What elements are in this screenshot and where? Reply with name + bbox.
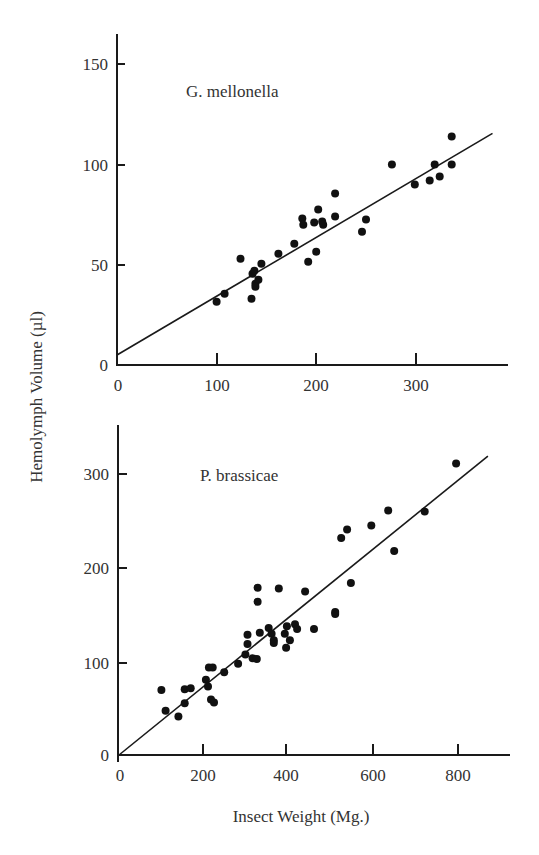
bottom-xtick-800: 800	[445, 766, 471, 785]
top-species-label: G. mellonella	[186, 82, 279, 101]
data-point	[411, 181, 419, 189]
data-point	[312, 248, 320, 256]
bottom-ytick-0: 0	[101, 746, 110, 765]
data-point	[270, 639, 278, 647]
data-point	[347, 579, 355, 587]
data-point	[257, 260, 265, 268]
data-point	[281, 630, 289, 638]
bottom-regression-line	[119, 456, 488, 755]
data-point	[209, 664, 217, 672]
data-point	[448, 132, 456, 140]
data-point	[436, 173, 444, 181]
data-point	[421, 508, 429, 516]
bottom-xtick-0: 0	[116, 766, 125, 785]
data-point	[343, 525, 351, 533]
data-point	[174, 713, 182, 721]
bottom-xtick-600: 600	[360, 766, 386, 785]
data-point	[301, 587, 309, 595]
data-point	[250, 267, 258, 275]
data-point	[452, 460, 460, 468]
data-point	[162, 707, 170, 715]
data-point	[331, 190, 339, 198]
bottom-species-label: P. brassicae	[200, 466, 278, 485]
data-point	[256, 629, 264, 637]
bottom-y-ticks	[118, 474, 127, 663]
data-point	[253, 655, 261, 663]
data-point	[431, 161, 439, 169]
data-point	[254, 276, 262, 284]
data-point	[248, 295, 256, 303]
data-point	[299, 221, 307, 229]
bottom-ytick-300: 300	[84, 465, 110, 484]
top-xtick-100: 100	[204, 376, 230, 395]
data-point	[310, 219, 318, 227]
data-point	[290, 240, 298, 248]
y-axis-title: Hemolymph Volume (µl)	[27, 311, 46, 483]
top-ytick-100: 100	[83, 156, 109, 175]
data-point	[234, 660, 242, 668]
data-point	[282, 644, 290, 652]
top-ytick-0: 0	[100, 356, 109, 375]
data-point	[304, 258, 312, 266]
bottom-panel-p-brassicae: 300 200 100 0 0 200 400 600 800 P. brass…	[84, 425, 511, 785]
bottom-ytick-200: 200	[84, 559, 110, 578]
bottom-ytick-100: 100	[84, 654, 110, 673]
data-point	[254, 598, 262, 606]
data-point	[367, 522, 375, 530]
data-point	[331, 213, 339, 221]
data-point	[448, 161, 456, 169]
data-point	[314, 206, 322, 214]
top-x-ticks	[217, 353, 416, 365]
top-data-points	[213, 132, 456, 305]
data-point	[181, 699, 189, 707]
data-point	[274, 250, 282, 258]
figure: 150 100 50 0 0 100 200 300 G. mellonella…	[0, 0, 539, 855]
top-xtick-300: 300	[403, 376, 429, 395]
data-point	[310, 625, 318, 633]
data-point	[244, 631, 252, 639]
data-point	[358, 228, 366, 236]
data-point	[204, 682, 212, 690]
data-point	[388, 161, 396, 169]
data-point	[221, 290, 229, 298]
data-point	[337, 534, 345, 542]
data-point	[275, 585, 283, 593]
top-panel-g-mellonella: 150 100 50 0 0 100 200 300 G. mellonella	[83, 34, 509, 395]
data-point	[210, 698, 218, 706]
bottom-data-points	[157, 460, 460, 721]
top-xtick-200: 200	[303, 376, 329, 395]
data-point	[213, 298, 221, 306]
top-ytick-150: 150	[83, 55, 109, 74]
top-y-ticks	[117, 64, 125, 265]
data-point	[426, 177, 434, 185]
data-point	[286, 636, 294, 644]
data-point	[362, 216, 370, 224]
data-point	[384, 507, 392, 515]
data-point	[244, 640, 252, 648]
data-point	[319, 221, 327, 229]
bottom-xtick-200: 200	[190, 766, 216, 785]
data-point	[251, 283, 259, 291]
x-axis-title: Insect Weight (Mg.)	[233, 807, 370, 826]
data-point	[220, 668, 228, 676]
bottom-x-ticks	[203, 744, 458, 755]
top-ytick-50: 50	[91, 256, 108, 275]
data-point	[390, 547, 398, 555]
data-point	[187, 684, 195, 692]
data-point	[254, 584, 262, 592]
data-point	[157, 686, 165, 694]
data-point	[283, 622, 291, 630]
data-point	[331, 610, 339, 618]
data-point	[293, 625, 301, 633]
top-xtick-0: 0	[114, 376, 123, 395]
data-point	[237, 255, 245, 263]
bottom-xtick-400: 400	[273, 766, 299, 785]
data-point	[241, 650, 249, 658]
